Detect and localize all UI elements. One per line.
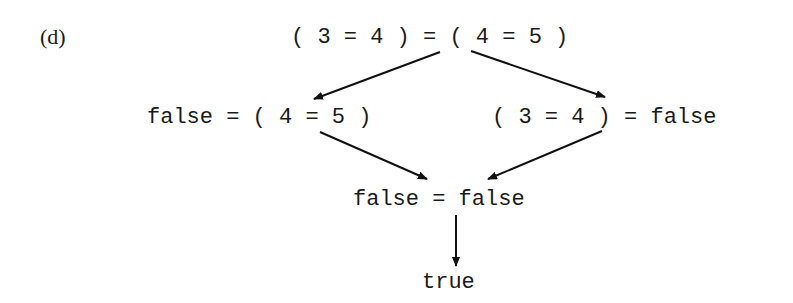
arrow-left-to-merge bbox=[320, 132, 427, 179]
arrow-root-to-right bbox=[471, 51, 605, 97]
arrows-layer bbox=[0, 0, 793, 303]
arrow-right-to-merge bbox=[488, 131, 602, 179]
arrow-root-to-left bbox=[314, 52, 440, 99]
